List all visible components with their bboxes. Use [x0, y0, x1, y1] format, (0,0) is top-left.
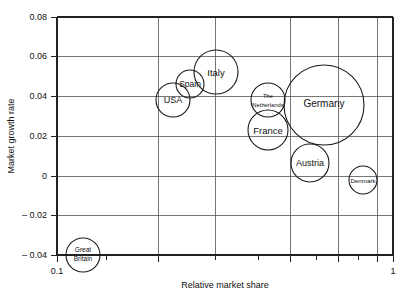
bubble-label-netherlands-line1: The	[263, 93, 273, 99]
bubble-germany[interactable]: Germany	[284, 65, 364, 145]
xtick-label-max: 1	[390, 266, 395, 276]
bubble-label-great-britain-line1: Great	[75, 246, 91, 253]
y-tick-marks	[51, 17, 57, 255]
bubble-denmark[interactable]: Denmark	[349, 166, 377, 194]
bubble-label-germany: Germany	[303, 98, 344, 109]
bubble-label-france: France	[253, 125, 283, 136]
bubble-label-usa: USA	[164, 95, 183, 105]
bubble-italy[interactable]: Italy	[194, 50, 238, 94]
ytick-label-0: 0	[42, 171, 47, 181]
bubble-series: Great Britain USA Spain Italy The Nether…	[66, 50, 377, 272]
y-axis-title: Market growth rate	[6, 98, 16, 173]
x-tick-labels: 0.1 1	[51, 266, 396, 276]
chart-canvas: 0.08 0.06 0.04 0.02 0 – 0.02 – 0.04 0.1 …	[0, 0, 402, 299]
x-tick-marks	[57, 255, 393, 262]
bubble-label-netherlands-line2: Netherlands	[252, 102, 283, 108]
bubble-label-italy: Italy	[207, 67, 225, 78]
ytick-label-0.02: 0.02	[29, 131, 47, 141]
ytick-label-0.08: 0.08	[29, 12, 47, 22]
bubble-label-austria: Austria	[296, 158, 324, 168]
ytick-label-neg0.02: – 0.02	[22, 210, 47, 220]
ytick-label-neg0.04: – 0.04	[22, 250, 47, 260]
ytick-label-0.04: 0.04	[29, 91, 47, 101]
bubble-label-great-britain-line2: Britain	[74, 255, 93, 262]
y-tick-labels: 0.08 0.06 0.04 0.02 0 – 0.02 – 0.04	[22, 12, 47, 260]
bubble-great-britain[interactable]: Great Britain	[66, 238, 100, 272]
bubble-france[interactable]: France	[248, 110, 288, 150]
bubble-label-denmark: Denmark	[350, 177, 376, 184]
bubble-chart: 0.08 0.06 0.04 0.02 0 – 0.02 – 0.04 0.1 …	[0, 0, 402, 299]
xtick-label-min: 0.1	[51, 266, 64, 276]
bubble-austria[interactable]: Austria	[291, 144, 329, 182]
x-axis-title: Relative market share	[181, 280, 269, 290]
ytick-label-0.06: 0.06	[29, 51, 47, 61]
